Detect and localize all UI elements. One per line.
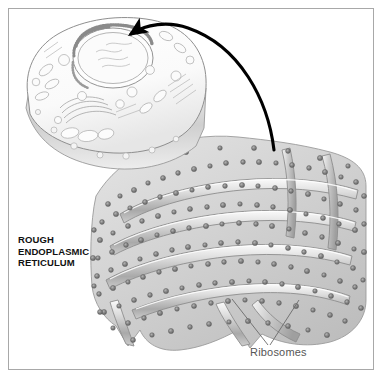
figure-root: ROUGH ENDOPLASMIC RETICULUM Ribosomes — [0, 0, 390, 384]
figure-border — [8, 8, 374, 370]
ribosomes-label: Ribosomes — [250, 347, 307, 359]
rough-er-label: ROUGH ENDOPLASMIC RETICULUM — [18, 234, 89, 269]
